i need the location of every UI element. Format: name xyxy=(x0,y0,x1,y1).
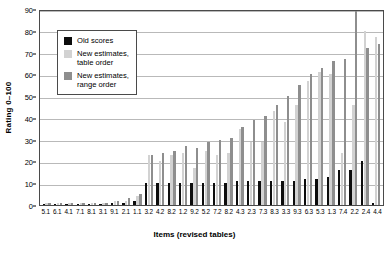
bar xyxy=(162,153,164,205)
legend-swatch-icon xyxy=(64,37,72,45)
y-axis-title: Rating 0–100 xyxy=(2,0,16,215)
x-axis-tick-label: 4.2 xyxy=(154,208,165,226)
bar xyxy=(298,85,300,205)
bar xyxy=(185,146,187,205)
y-axis-tick-label: 50 xyxy=(25,93,33,102)
bar xyxy=(378,44,380,205)
x-axis-tick-label: 9.1 xyxy=(109,208,120,226)
x-axis-tick-label: 2.3 xyxy=(246,208,257,226)
x-axis-tick-label: 4.1 xyxy=(63,208,74,226)
bar xyxy=(321,68,323,205)
bar-group xyxy=(302,11,313,205)
y-axis-tick-mark xyxy=(33,140,36,141)
bar-group xyxy=(257,11,268,205)
bar xyxy=(128,198,130,205)
bar-group xyxy=(314,11,325,205)
x-axis-tick-label: 5.3 xyxy=(315,208,326,226)
bar-group xyxy=(268,11,279,205)
x-axis-tick-label: 4.3 xyxy=(234,208,245,226)
bar xyxy=(230,138,232,206)
x-axis-tick-label: 8.2 xyxy=(166,208,177,226)
y-axis-tick-mark xyxy=(33,118,36,119)
x-axis-tick-label: 1.2 xyxy=(177,208,188,226)
bar xyxy=(151,155,153,205)
legend-entry: Old scores xyxy=(64,36,129,45)
legend-label: New estimates, range order xyxy=(77,71,129,89)
y-axis-tick-label: 40 xyxy=(25,114,33,123)
bar xyxy=(48,203,50,205)
x-axis-tick-label: 7.2 xyxy=(212,208,223,226)
bar-chart: Rating 0–100 0102030405060708090 5.16.14… xyxy=(0,0,389,255)
bar xyxy=(105,203,107,205)
legend-label: Old scores xyxy=(77,36,113,45)
bar-group xyxy=(189,11,200,205)
chart-legend: Old scoresNew estimates, table orderNew … xyxy=(57,30,137,95)
y-axis-tick-label: 60 xyxy=(25,71,33,80)
legend-entry: New estimates, table order xyxy=(64,49,129,67)
bar xyxy=(264,116,266,205)
bar xyxy=(71,203,73,205)
bar xyxy=(332,61,334,205)
y-axis-tick-label: 80 xyxy=(25,27,33,36)
bar xyxy=(344,59,346,205)
bar-group xyxy=(280,11,291,205)
y-axis-tick-label: 70 xyxy=(25,49,33,58)
bar xyxy=(196,148,198,205)
x-axis-tick-label: 8.2 xyxy=(223,208,234,226)
bar xyxy=(139,194,141,205)
x-axis-tick-label: 6.3 xyxy=(303,208,314,226)
x-axis-tick-label: 8.3 xyxy=(269,208,280,226)
bar xyxy=(366,48,368,205)
x-axis-tick-label: 1.1 xyxy=(132,208,143,226)
y-axis-tick-mark xyxy=(33,75,36,76)
x-axis-tick-label: 9.3 xyxy=(292,208,303,226)
bar-group xyxy=(155,11,166,205)
y-axis-tick-mark xyxy=(33,206,36,207)
y-axis-tick-mark xyxy=(33,53,36,54)
bar xyxy=(82,203,84,205)
bar-group xyxy=(223,11,234,205)
legend-swatch-icon xyxy=(64,50,72,58)
y-axis-tick-mark xyxy=(33,31,36,32)
bar-group xyxy=(41,11,52,205)
x-axis-tick-label: 4.4 xyxy=(372,208,383,226)
y-axis-tick-mark xyxy=(33,162,36,163)
bar-group xyxy=(211,11,222,205)
x-axis-tick-label: 7.3 xyxy=(257,208,268,226)
x-axis-tick-label: 7.4 xyxy=(337,208,348,226)
x-axis-tick-label: 5.1 xyxy=(40,208,51,226)
legend-entry: New estimates, range order xyxy=(64,71,129,89)
bar xyxy=(60,203,62,205)
x-axis-tick-label: 1.3 xyxy=(326,208,337,226)
bar-group xyxy=(143,11,154,205)
x-axis-tick-label: 2.2 xyxy=(349,208,360,226)
y-axis-tick-mark xyxy=(33,97,36,98)
bar-group xyxy=(200,11,211,205)
bar xyxy=(173,151,175,205)
bar-group xyxy=(177,11,188,205)
y-axis-title-text: Rating 0–100 xyxy=(5,82,14,134)
bar-group xyxy=(336,11,347,205)
bar-group xyxy=(234,11,245,205)
bar xyxy=(276,105,278,205)
bar xyxy=(117,201,119,205)
bar xyxy=(287,96,289,205)
legend-swatch-icon xyxy=(64,72,72,80)
y-axis-tick-label: 10 xyxy=(25,180,33,189)
x-axis-tick-label: 8.1 xyxy=(86,208,97,226)
bar-group xyxy=(166,11,177,205)
x-axis-tick-label: 3.1 xyxy=(97,208,108,226)
x-axis-tick-label: 6.1 xyxy=(51,208,62,226)
bar xyxy=(241,127,243,205)
bar xyxy=(207,142,209,205)
bar-group xyxy=(348,11,359,205)
y-axis-tick-label: 90 xyxy=(25,6,33,15)
bar-group xyxy=(245,11,256,205)
bar xyxy=(253,120,255,205)
bar xyxy=(310,74,312,205)
legend-label: New estimates, table order xyxy=(77,49,129,67)
bar-group xyxy=(370,11,381,205)
bar xyxy=(355,11,357,205)
x-axis-tick-label: 7.1 xyxy=(74,208,85,226)
x-axis-tick-label: 9.2 xyxy=(189,208,200,226)
